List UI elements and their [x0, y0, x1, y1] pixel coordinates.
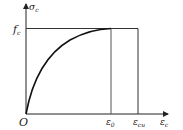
origin-label: O [19, 116, 28, 129]
peak-strain-label: ε0 [106, 117, 115, 128]
stress-strain-diagram: σc fc O ε0 εcu εc [0, 0, 183, 130]
x-axis-label: εc [160, 117, 169, 128]
peak-stress-label: fc [12, 23, 21, 36]
y-axis-label: σc [29, 2, 39, 13]
stress-strain-curve [26, 29, 111, 115]
ultimate-strain-label: εcu [133, 117, 145, 128]
